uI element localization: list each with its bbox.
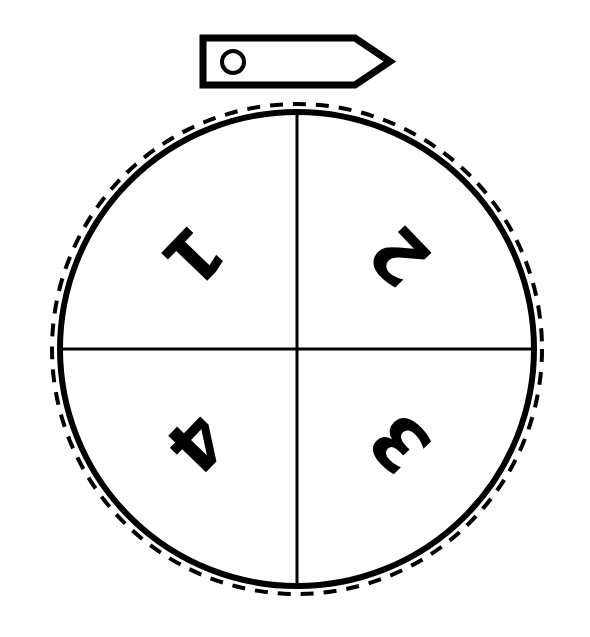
spinner-pointer[interactable] <box>203 38 390 85</box>
pointer-pivot-hole-icon <box>222 51 244 73</box>
spinner-diagram-svg: 1 2 3 4 <box>0 0 590 637</box>
spinner-diagram-stage: 1 2 3 4 <box>0 0 590 637</box>
